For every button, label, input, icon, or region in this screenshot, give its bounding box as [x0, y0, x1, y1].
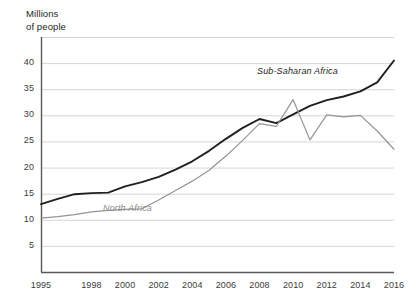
x-axis-tick-label: 2010 — [283, 280, 303, 290]
x-axis-tick-label: 1998 — [81, 280, 101, 290]
x-axis-tick-label: 2004 — [182, 280, 202, 290]
series-line-sub-saharan-africa — [41, 61, 394, 205]
x-axis-tick-label: 1995 — [31, 280, 51, 290]
y-axis-tick-label: 30 — [8, 109, 34, 119]
y-axis-tick-label: 10 — [8, 214, 34, 224]
x-axis-tick-label: 2012 — [317, 280, 337, 290]
series-label-sub-saharan-africa: Sub-Saharan Africa — [257, 66, 338, 76]
y-axis-tick-label: 5 — [8, 240, 34, 250]
y-axis-tick-label: 40 — [8, 57, 34, 67]
series-line-north-africa — [41, 100, 394, 219]
series-label-north-africa: North Africa — [103, 203, 152, 213]
x-axis-tick-label: 2014 — [350, 280, 370, 290]
line-chart: Millions of people Sub-Saharan Africa No… — [0, 0, 412, 304]
y-axis-tick-label: 20 — [8, 162, 34, 172]
y-axis-tick-label: 35 — [8, 83, 34, 93]
y-axis-tick-label: 15 — [8, 188, 34, 198]
x-axis-tick-label: 2016 — [384, 280, 404, 290]
x-axis-tick-label: 2000 — [115, 280, 135, 290]
plot-area — [0, 0, 412, 304]
x-axis-tick-label: 2002 — [148, 280, 168, 290]
x-axis-tick-label: 2006 — [216, 280, 236, 290]
x-axis-tick-label: 2008 — [249, 280, 269, 290]
y-axis-tick-label: 25 — [8, 135, 34, 145]
